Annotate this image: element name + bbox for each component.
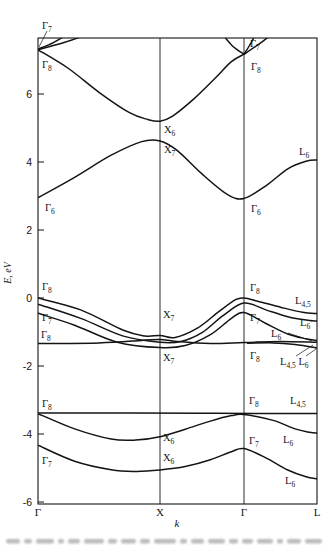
y-tick-label: -2 xyxy=(23,360,32,372)
symmetry-point-label: L6 xyxy=(285,475,295,489)
label-leader-line xyxy=(39,31,47,47)
band-curve-valence-flat-L-branch xyxy=(248,343,317,348)
y-tick-label: -4 xyxy=(23,428,32,440)
plot-frame xyxy=(38,38,317,504)
band-curve-conduction-upper xyxy=(38,50,244,122)
symmetry-point-label: Γ7 xyxy=(42,312,52,326)
band-curve-gamma2-arm-left xyxy=(221,33,244,54)
symmetry-point-label: L4,5 L6 xyxy=(280,356,309,370)
k-point-label: X xyxy=(156,506,164,518)
symmetry-point-label: Γ8 xyxy=(42,281,52,295)
y-tick-label: -6 xyxy=(23,496,32,508)
cropped-caption-blur xyxy=(6,539,322,544)
k-point-label: Γ xyxy=(241,506,247,518)
bands-group xyxy=(38,33,317,479)
symmetry-point-label: L4,5 xyxy=(295,295,311,309)
symmetry-point-label: Γ7 xyxy=(42,20,52,34)
symmetry-point-label: L6 xyxy=(283,434,293,448)
band-curve-deep-lower xyxy=(38,445,317,479)
band-curve-deep-upper xyxy=(38,414,317,441)
symmetry-point-label: Γ8 xyxy=(249,395,259,409)
y-tick-label: 0 xyxy=(26,292,32,304)
k-point-label: Γ xyxy=(35,506,41,518)
symmetry-point-label: L6 xyxy=(299,146,309,160)
y-axis-title: E, eV xyxy=(2,260,13,285)
symmetry-point-label: X6 xyxy=(163,452,175,466)
label-leader-line xyxy=(306,349,316,356)
symmetry-point-label: X7 xyxy=(163,309,175,323)
symmetry-point-label: Γ8 xyxy=(42,398,52,412)
symmetry-point-label: X7 xyxy=(164,144,176,158)
band-curve-gamma1-arm-wide xyxy=(38,34,91,50)
band-structure-plot: 6420-2-4-6E, eVΓ7Γ8Γ7Γ8X6X7L6Γ6Γ6Γ8Γ7Γ8X… xyxy=(0,0,331,545)
symmetry-point-label: Γ7 xyxy=(250,312,260,326)
symmetry-point-label: Γ8 xyxy=(250,350,260,364)
y-tick-label: 6 xyxy=(26,88,32,100)
band-structure-figure: 6420-2-4-6E, eVΓ7Γ8Γ7Γ8X6X7L6Γ6Γ6Γ8Γ7Γ8X… xyxy=(0,0,331,545)
x-axis-title: k xyxy=(175,517,181,529)
symmetry-point-label: Γ7 xyxy=(249,435,259,449)
symmetry-point-label: Γ8 xyxy=(250,282,260,296)
symmetry-point-label: L4,5 xyxy=(290,395,306,409)
band-curve-conduction-lower xyxy=(38,140,317,199)
band-curve-gamma1-arm-steep xyxy=(38,33,70,49)
label-leader-line xyxy=(288,333,312,341)
symmetry-point-label: Γ8 xyxy=(251,61,261,75)
symmetry-point-label: Γ7 xyxy=(42,455,52,469)
k-point-label: L xyxy=(314,506,321,518)
symmetry-point-label: X7 xyxy=(163,352,175,366)
symmetry-point-label: X6 xyxy=(163,432,175,446)
y-tick-label: 4 xyxy=(26,156,32,168)
symmetry-point-label: Γ8 xyxy=(41,329,51,343)
symmetry-point-label: Γ6 xyxy=(251,203,261,217)
symmetry-point-label: L6′ xyxy=(300,317,312,331)
symmetry-point-label: Γ8 xyxy=(42,59,52,73)
band-curve-deep-flat xyxy=(38,413,317,414)
symmetry-point-label: X6 xyxy=(164,124,176,138)
y-tick-label: 2 xyxy=(26,224,32,236)
symmetry-point-label: Γ6 xyxy=(45,202,55,216)
